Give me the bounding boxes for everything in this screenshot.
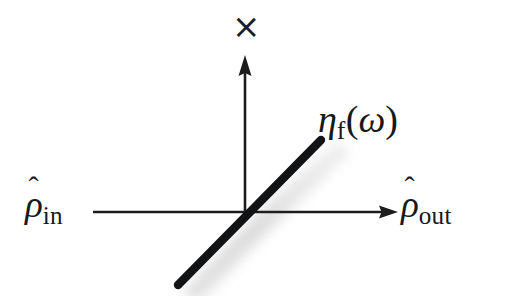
rho-in-base: ρ [25, 184, 43, 225]
rho-out-hatted-glyph: ρˆ [401, 186, 419, 223]
eta-paren-close: ) [385, 98, 398, 140]
eta-base: η [318, 98, 337, 140]
rho-in-hatted-glyph: ρˆ [25, 186, 43, 223]
rho-out-base: ρ [401, 184, 419, 225]
diagonal-line-label-eta: ηf(ω) [318, 100, 398, 144]
diagonal-line-shadow [192, 147, 342, 296]
eta-paren-open: ( [346, 98, 359, 140]
horizontal-axis-label-rho-in: ρˆin [25, 186, 63, 228]
rho-in-subscript: in [43, 202, 63, 229]
vertical-axis [239, 55, 252, 212]
eta-argument-omega: ω [358, 98, 385, 140]
vertical-axis-label-cross: × [232, 9, 261, 43]
horizontal-axis-label-rho-out: ρˆout [401, 186, 452, 228]
rho-out-subscript: out [419, 202, 452, 229]
axis-diagram-figure: × ρˆin ρˆout ηf(ω) [0, 0, 515, 296]
eta-subscript-f: f [337, 116, 346, 145]
